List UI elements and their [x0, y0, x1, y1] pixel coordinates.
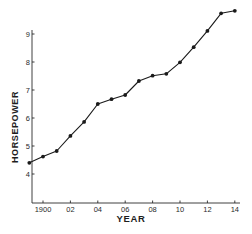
data-point-marker [206, 29, 210, 33]
x-tick-label: 02 [66, 205, 74, 214]
data-point-marker [219, 11, 223, 15]
data-point-marker [96, 102, 100, 106]
x-tick-label: 14 [231, 205, 239, 214]
y-tick-label: 8 [26, 58, 30, 67]
data-point-marker [123, 93, 127, 97]
line-chart: 456789 190002040608101214 HORSEPOWER YEA… [0, 0, 252, 234]
x-ticks: 190002040608101214 [35, 201, 239, 215]
y-tick-label: 6 [26, 114, 30, 123]
data-point-marker [164, 72, 168, 76]
series-line [29, 11, 235, 163]
data-point-marker [41, 155, 45, 159]
x-axis: 190002040608101214 [32, 201, 240, 215]
x-tick-label: 08 [148, 205, 156, 214]
x-tick-label: 04 [94, 205, 102, 214]
y-tick-label: 5 [26, 142, 30, 151]
data-point-marker [178, 60, 182, 64]
data-series [27, 9, 236, 165]
x-tick-label: 1900 [35, 205, 52, 214]
y-tick-label: 4 [26, 170, 30, 179]
y-ticks: 456789 [26, 30, 35, 179]
data-point-marker [110, 97, 114, 101]
y-axis-title: HORSEPOWER [10, 91, 20, 163]
x-tick-label: 10 [176, 205, 184, 214]
data-point-marker [69, 134, 73, 138]
data-point-marker [192, 45, 196, 49]
x-tick-label: 12 [203, 205, 211, 214]
data-point-marker [233, 9, 237, 13]
y-axis: 456789 [26, 30, 35, 203]
data-point-marker [55, 149, 59, 153]
data-point-marker [137, 79, 141, 83]
y-tick-label: 7 [26, 86, 30, 95]
y-tick-label: 9 [26, 30, 30, 39]
data-point-marker [27, 161, 31, 165]
data-point-marker [151, 74, 155, 78]
x-axis-title: YEAR [117, 213, 146, 224]
data-point-marker [82, 120, 86, 124]
